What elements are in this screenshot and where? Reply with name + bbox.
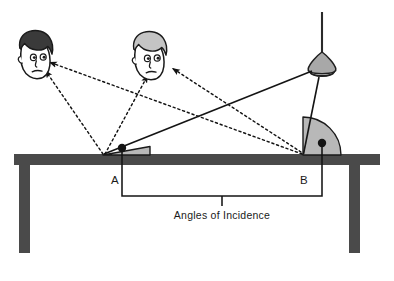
hanging-lamp [308,12,336,76]
person-head-dark-hair [18,31,52,79]
head-right-pupil-left [147,57,150,60]
table-leg-left [19,165,30,253]
optics-reflection-diagram: A B Angles of Incidence [0,0,394,281]
caption-angles-of-incidence: Angles of Incidence [174,209,270,221]
label-point-a: A [111,174,119,186]
head-left-pupil-right [43,56,46,59]
diagram-canvas: A B Angles of Incidence [0,0,394,281]
label-point-b: B [300,174,308,186]
head-right-pupil-right [157,57,160,60]
person-head-light-hair [132,32,166,80]
lamp-shade [308,52,336,74]
reflected-ray-b-to-left-head [49,62,302,154]
head-left-pupil-left [33,56,36,59]
reflected-ray-a-to-right-head [105,75,148,154]
incident-ray-lamp-to-a [104,71,312,154]
reflected-ray-a-to-left-head [45,70,103,154]
table-leg-right [349,165,360,253]
reflected-rays [45,62,302,154]
table [14,154,380,253]
reflected-ray-b-to-right-head [172,68,301,152]
incident-rays [104,71,319,154]
